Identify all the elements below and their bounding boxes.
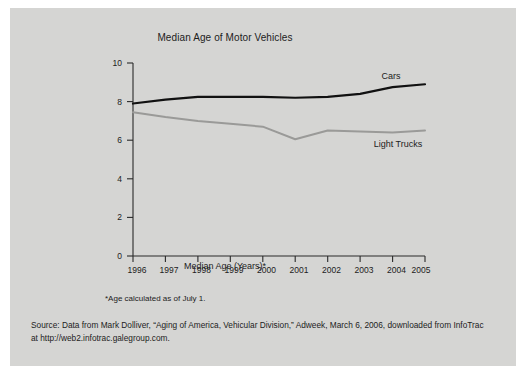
- figure-panel: Median Age of Motor Vehicles 10 8 6 4 2 …: [10, 8, 516, 366]
- series-line-light-trucks: [133, 112, 425, 139]
- source-line-1: Source: Data from Mark Dolliver, “Aging …: [31, 320, 484, 330]
- source-note: Source: Data from Mark Dolliver, “Aging …: [31, 319, 501, 344]
- series-label-cars: Cars: [381, 71, 401, 81]
- y-tick-label-8: 8: [117, 97, 122, 107]
- series-line-cars: [133, 84, 425, 103]
- y-tick-label-2: 2: [117, 212, 122, 222]
- series-label-light-trucks: Light Trucks: [374, 139, 423, 149]
- y-tick-label-0: 0: [117, 251, 122, 261]
- chart-footnote: *Age calculated as of July 1.: [105, 294, 206, 303]
- y-tick-label-6: 6: [117, 135, 122, 145]
- source-line-2: at http://web2.infotrac.galegroup.com.: [31, 332, 501, 345]
- line-chart-plot: 10 8 6 4 2 0 1996 1997 1998: [10, 8, 516, 298]
- chart-panel: Median Age of Motor Vehicles 10 8 6 4 2 …: [10, 8, 516, 298]
- y-tick-label-10: 10: [113, 58, 123, 68]
- x-axis-title: Median Age (Years)*: [10, 261, 440, 271]
- y-tick-label-4: 4: [117, 174, 122, 184]
- y-axis-ticks: [127, 63, 133, 256]
